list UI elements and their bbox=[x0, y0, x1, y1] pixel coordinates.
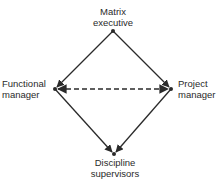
node-label-discipline-supervisors: Discipline supervisors bbox=[91, 157, 140, 179]
node-label-line: Discipline bbox=[91, 157, 140, 168]
matrix-relationship-diagram: Matrix executive Functional manager Proj… bbox=[0, 0, 217, 179]
node-label-line: supervisors bbox=[91, 168, 140, 179]
node-label-line: executive bbox=[93, 17, 133, 28]
node-label-line: manager bbox=[178, 89, 216, 100]
edge-executive-to-functional bbox=[57, 31, 113, 87]
node-label-line: Project bbox=[178, 78, 216, 89]
node-label-line: Matrix bbox=[93, 6, 133, 17]
node-dot-functional-manager bbox=[53, 87, 57, 91]
node-label-functional-manager: Functional manager bbox=[2, 78, 46, 100]
edge-project-to-supervisors bbox=[116, 89, 171, 152]
node-dot-discipline-supervisors bbox=[112, 152, 116, 156]
node-dot-matrix-executive bbox=[111, 29, 115, 33]
node-label-line: Functional bbox=[2, 78, 46, 89]
node-label-matrix-executive: Matrix executive bbox=[93, 6, 133, 28]
edge-functional-to-supervisors bbox=[55, 89, 112, 152]
node-label-line: manager bbox=[2, 89, 46, 100]
node-label-project-manager: Project manager bbox=[178, 78, 216, 100]
node-dot-project-manager bbox=[169, 87, 173, 91]
edge-executive-to-project bbox=[113, 31, 169, 87]
